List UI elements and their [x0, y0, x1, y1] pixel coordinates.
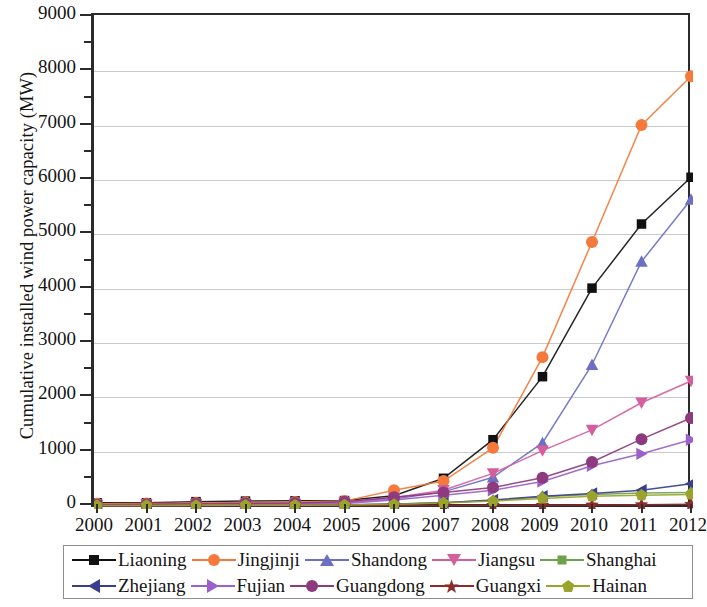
triangle-right-marker-icon	[191, 576, 235, 596]
y-axis-minor-tick	[84, 150, 91, 152]
series-layer	[94, 15, 688, 504]
legend-label: Shanghai	[584, 549, 662, 571]
x-axis-tick	[542, 504, 544, 513]
x-axis-tick-label: 2007	[422, 514, 460, 536]
legend-label: Zhejiang	[116, 575, 191, 597]
y-axis-tick-label: 5000	[0, 219, 76, 241]
y-axis-tick	[80, 394, 91, 396]
x-axis-tick-label: 2008	[471, 514, 509, 536]
legend-item-hainan[interactable]: Hainan	[546, 575, 652, 597]
y-axis-minor-tick	[84, 204, 91, 206]
legend-label: Shandong	[349, 549, 432, 571]
x-axis-tick-label: 2006	[372, 514, 410, 536]
x-axis-tick	[641, 504, 643, 513]
legend-marker: ★	[443, 580, 460, 593]
x-axis-tick-label: 2005	[323, 514, 361, 536]
legend-marker	[207, 579, 219, 593]
legend-item-shandong[interactable]: Shandong	[305, 549, 432, 571]
y-axis-minor-tick	[84, 422, 91, 424]
x-axis-tick-label: 2001	[125, 514, 163, 536]
series-lines-and-markers	[94, 15, 693, 509]
y-axis-minor-tick	[84, 313, 91, 315]
x-axis-tick	[245, 504, 247, 513]
y-axis-tick	[80, 340, 91, 342]
circle-marker-icon	[290, 576, 334, 596]
y-axis-tick	[80, 231, 91, 233]
legend-label: Guangdong	[334, 575, 430, 597]
legend-item-liaoning[interactable]: Liaoning	[72, 549, 192, 571]
square-marker-icon	[72, 550, 116, 570]
y-axis-minor-tick	[84, 259, 91, 261]
plot-area	[91, 13, 690, 507]
legend-marker	[88, 579, 100, 593]
x-axis-tick	[690, 504, 692, 513]
legend-item-guangxi[interactable]: ★Guangxi	[430, 575, 546, 597]
legend-item-jingjinji[interactable]: Jingjinji	[192, 549, 305, 571]
x-axis-tick-labels: 2000200120022003200420052006200720082009…	[91, 514, 692, 542]
x-axis-tick	[492, 504, 494, 513]
x-axis-tick	[146, 504, 148, 513]
legend-item-zhejiang[interactable]: Zhejiang	[72, 575, 191, 597]
legend-marker	[562, 580, 574, 592]
legend-label: Liaoning	[116, 549, 192, 571]
triangle-left-marker-icon	[72, 576, 116, 596]
legend-label: Guangxi	[474, 575, 546, 597]
y-axis-tick-label: 2000	[0, 382, 76, 404]
y-axis-tick-label: 1000	[0, 437, 76, 459]
legend-item-fujian[interactable]: Fujian	[191, 575, 291, 597]
y-axis-tick	[80, 503, 91, 505]
legend-marker	[306, 580, 318, 592]
legend-label: Jingjinji	[236, 549, 305, 571]
legend-row: ZhejiangFujianGuangdong★GuangxiHainan	[64, 573, 692, 599]
legend-label: Hainan	[590, 575, 652, 597]
legend-item-shanghai[interactable]: Shanghai	[540, 549, 662, 571]
y-axis-tick	[80, 68, 91, 70]
y-axis-tick-label: 6000	[0, 165, 76, 187]
y-axis-minor-tick	[84, 476, 91, 478]
y-axis-tick	[80, 286, 91, 288]
circle-marker-icon	[192, 550, 236, 570]
star-marker-icon: ★	[430, 576, 474, 596]
legend-item-jiangsu[interactable]: Jiangsu	[432, 549, 540, 571]
chart-legend: LiaoningJingjinjiShandongJiangsuShanghai…	[63, 545, 693, 599]
y-axis-title: Cumulative installed wind power capacity…	[17, 16, 38, 496]
legend-marker	[557, 556, 566, 565]
x-axis-tick	[591, 504, 593, 513]
y-axis-tick-label: 3000	[0, 328, 76, 350]
y-axis-minor-tick	[84, 367, 91, 369]
x-axis-tick-label: 2004	[273, 514, 311, 536]
diamond-marker-icon	[540, 550, 584, 570]
x-axis-tick	[443, 504, 445, 513]
triangle-up-marker-icon	[305, 550, 349, 570]
y-axis-tick-label: 0	[0, 491, 76, 513]
x-axis-tick-label: 2011	[620, 514, 657, 536]
y-axis-tick	[80, 177, 91, 179]
legend-label: Fujian	[235, 575, 291, 597]
y-axis-tick	[80, 123, 91, 125]
x-axis-tick	[294, 504, 296, 513]
legend-marker	[447, 554, 461, 566]
y-axis-tick	[80, 449, 91, 451]
x-axis-tick-label: 2009	[521, 514, 559, 536]
y-axis-tick-label: 8000	[0, 56, 76, 78]
legend-marker	[89, 555, 99, 565]
legend-marker	[208, 554, 220, 566]
legend-item-guangdong[interactable]: Guangdong	[290, 575, 430, 597]
x-axis-tick-label: 2002	[174, 514, 212, 536]
x-axis-tick-label: 2010	[570, 514, 608, 536]
triangle-down-marker-icon	[432, 550, 476, 570]
x-axis-tick	[393, 504, 395, 513]
legend-row: LiaoningJingjinjiShandongJiangsuShanghai	[64, 547, 692, 573]
y-axis-tick-label: 7000	[0, 111, 76, 133]
pentagon-marker-icon	[546, 576, 590, 596]
legend-marker	[320, 554, 334, 566]
x-axis-tick	[195, 504, 197, 513]
x-axis-tick-label: 2012	[669, 514, 707, 536]
y-axis-tick-label: 4000	[0, 274, 76, 296]
x-axis-tick	[96, 504, 98, 513]
x-axis-tick	[344, 504, 346, 513]
legend-label: Jiangsu	[476, 549, 540, 571]
x-axis-tick-label: 2003	[224, 514, 262, 536]
y-axis-tick	[80, 14, 91, 16]
